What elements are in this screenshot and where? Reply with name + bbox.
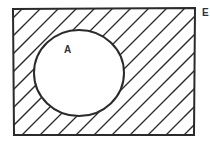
set-a-label: A <box>64 45 71 55</box>
venn-diagram <box>0 0 210 143</box>
universal-set-label: E <box>202 8 209 18</box>
shading-hatch <box>0 0 210 143</box>
